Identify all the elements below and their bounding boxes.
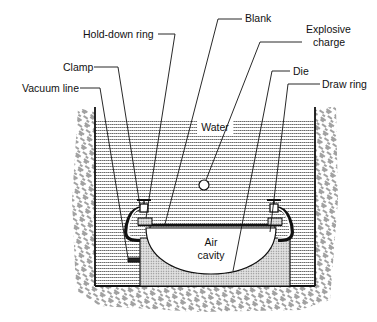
vacuum-line-label: Vacuum line	[22, 82, 79, 94]
draw-ring-label: Draw ring	[322, 78, 367, 90]
blank-label: Blank	[245, 12, 272, 24]
explosive-charge	[199, 180, 209, 190]
explosive-charge-label-2: charge	[313, 36, 345, 48]
explosive-forming-diagram: Air cavity Water	[0, 0, 377, 322]
vacuum-line	[128, 258, 140, 262]
explosive-charge-label-1: Explosive	[306, 23, 351, 35]
hold-down-ring-left	[138, 218, 152, 225]
air-cavity-label-2: cavity	[198, 249, 226, 261]
die: Air cavity	[140, 226, 290, 286]
die-label: Die	[293, 65, 309, 77]
air-cavity-label-1: Air	[205, 236, 218, 248]
hold-down-ring-right	[268, 218, 282, 225]
clamp-label: Clamp	[63, 61, 94, 73]
hold-down-ring-label: Hold-down ring	[83, 28, 154, 40]
